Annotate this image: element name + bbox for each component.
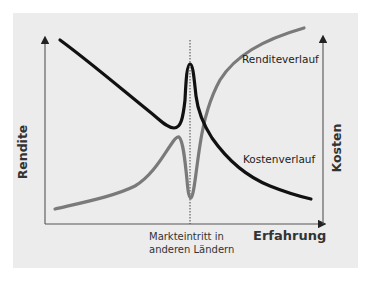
x-axis-title: Erfahrung (253, 228, 326, 243)
y-axis-left-title: Rendite (15, 125, 30, 180)
market-entry-label: Markteintritt in anderen Ländern (149, 230, 234, 256)
market-entry-label-line2: anderen Ländern (149, 243, 234, 256)
market-entry-label-line1: Markteintritt in (149, 230, 234, 243)
y-axis-right-title: Kosten (329, 124, 344, 173)
kosten-series-label: Kostenverlauf (243, 153, 315, 165)
rendite-series-label: Renditeverlauf (242, 53, 319, 65)
